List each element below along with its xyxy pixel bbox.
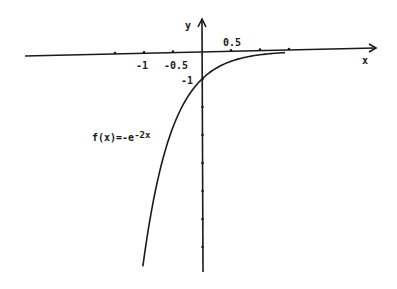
x-tick (230, 49, 233, 52)
x-tick-label-neg0-5: -0.5 (164, 61, 188, 71)
x-tick (259, 48, 262, 51)
x-axis-label: x (362, 56, 368, 66)
x-tick-label-neg1: -1 (136, 61, 148, 71)
function-plot (0, 0, 397, 289)
x-axis (25, 48, 375, 56)
function-label: f(x)=-e-2x (92, 133, 150, 143)
y-tick (201, 218, 204, 221)
x-tick (172, 50, 175, 53)
y-tick (201, 190, 204, 193)
y-axis-label: y (185, 21, 191, 31)
function-label-base: f(x)=-e (92, 132, 134, 143)
x-tick (288, 48, 291, 51)
function-label-exponent: -2x (134, 130, 150, 140)
x-tick-label-0-5: 0.5 (223, 38, 241, 48)
x-tick (143, 51, 146, 54)
y-tick (201, 134, 204, 137)
y-axis (202, 20, 203, 272)
function-curve (143, 53, 285, 267)
y-tick-label-neg1: -1 (181, 76, 193, 86)
y-tick (201, 246, 204, 249)
x-tick (114, 52, 117, 55)
y-tick (201, 106, 204, 109)
y-tick (201, 162, 204, 165)
